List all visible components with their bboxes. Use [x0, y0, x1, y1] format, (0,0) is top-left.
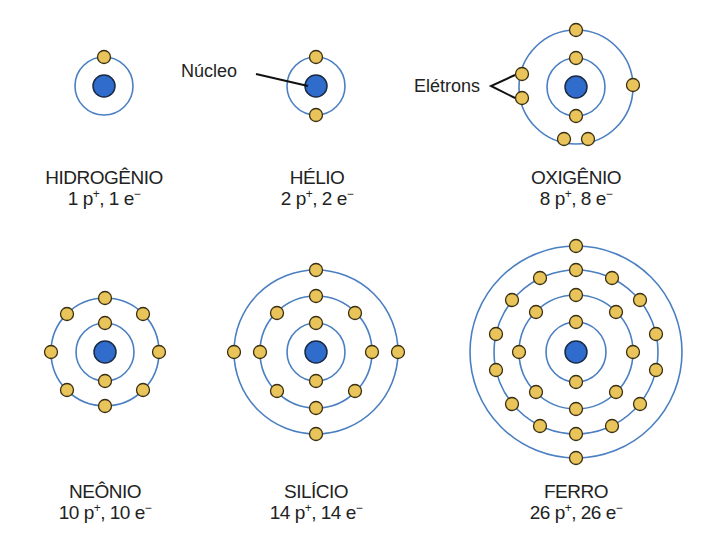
electrons-pointer-line [491, 75, 515, 98]
particle-count: 8 p+, 8 e− [476, 188, 676, 209]
element-name: SILÍCIO [216, 481, 416, 502]
element-name: HÉLIO [217, 167, 417, 188]
electron-icon [98, 51, 111, 64]
atom-label-helium: HÉLIO 2 p+, 2 e− [217, 167, 417, 209]
atom-label-oxygen: OXIGÊNIO 8 p+, 8 e− [476, 167, 676, 209]
nucleus-pointer-line [256, 74, 308, 86]
electrons-callout: Elétrons [414, 76, 480, 97]
atom-hydrogen [75, 51, 133, 116]
particle-count: 1 p+, 1 e− [4, 188, 204, 209]
nucleus-callout: Núcleo [181, 61, 237, 82]
nucleus-icon [305, 341, 327, 363]
atom-iron [470, 240, 682, 465]
electron-icon [310, 51, 323, 64]
particle-count: 14 p+, 14 e− [216, 502, 416, 523]
element-name: HIDROGÊNIO [4, 167, 204, 188]
atom-diagram [0, 0, 716, 538]
nucleus-icon [93, 75, 115, 97]
nucleus-icon [565, 341, 587, 363]
particle-count: 2 p+, 2 e− [217, 188, 417, 209]
atom-silicon [228, 264, 405, 441]
atom-label-hydrogen: HIDROGÊNIO 1 p+, 1 e− [4, 167, 204, 209]
atom-oxygen [491, 24, 640, 146]
atom-neon [45, 292, 166, 413]
atom-label-silicon: SILÍCIO 14 p+, 14 e− [216, 481, 416, 523]
element-name: FERRO [476, 481, 676, 502]
electron-icon [310, 109, 323, 122]
particle-count: 26 p+, 26 e− [476, 502, 676, 523]
atom-label-iron: FERRO 26 p+, 26 e− [476, 481, 676, 523]
nucleus-icon [565, 76, 587, 98]
element-name: NEÔNIO [5, 481, 205, 502]
nucleus-icon [94, 341, 116, 363]
atom-label-neon: NEÔNIO 10 p+, 10 e− [5, 481, 205, 523]
element-name: OXIGÊNIO [476, 167, 676, 188]
atom-helium [256, 51, 345, 122]
nucleus-icon [305, 75, 327, 97]
particle-count: 10 p+, 10 e− [5, 502, 205, 523]
